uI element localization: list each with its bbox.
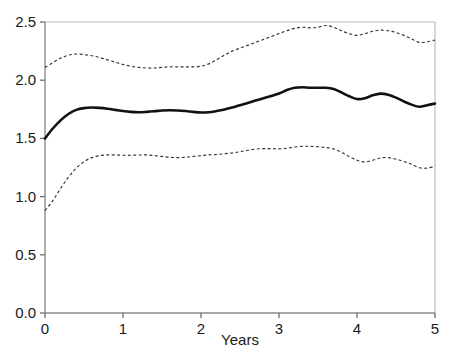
series-line-solid (45, 87, 435, 138)
y-axis-tick-labels: 0.00.51.01.52.02.5 (15, 13, 36, 321)
x-tick-label: 1 (119, 320, 127, 337)
y-tick-label: 1.5 (15, 129, 36, 146)
x-axis-ticks (45, 313, 435, 318)
x-axis-title: Years (221, 331, 259, 348)
y-tick-label: 1.0 (15, 188, 36, 205)
y-axis-ticks (40, 22, 45, 313)
data-series-group (45, 25, 435, 210)
series-line-dashed (45, 25, 435, 68)
x-tick-label: 4 (353, 320, 361, 337)
y-tick-label: 0.0 (15, 304, 36, 321)
y-tick-label: 2.0 (15, 71, 36, 88)
x-tick-label: 0 (41, 320, 49, 337)
chart-figure: 0.00.51.01.52.02.5 012345 Years (0, 0, 455, 360)
plot-frame-top-right (45, 22, 435, 313)
line-chart-plot: 0.00.51.01.52.02.5 012345 Years (0, 0, 455, 360)
y-tick-label: 0.5 (15, 246, 36, 263)
x-tick-label: 5 (431, 320, 439, 337)
x-tick-label: 3 (275, 320, 283, 337)
series-line-dashed (45, 146, 435, 210)
y-tick-label: 2.5 (15, 13, 36, 30)
x-tick-label: 2 (197, 320, 205, 337)
